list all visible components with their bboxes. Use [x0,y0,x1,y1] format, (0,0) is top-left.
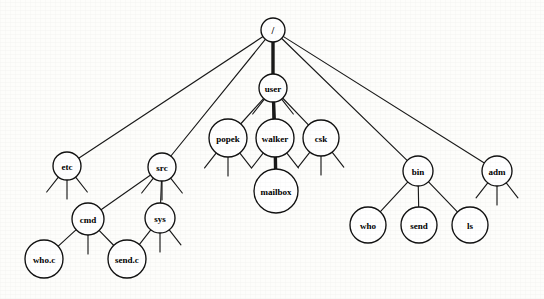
node-label-popek: popek [216,134,240,144]
node-label-sendc: send.c [115,255,139,265]
tree-node-bin[interactable]: bin [403,156,433,186]
stub-adm-left [476,183,488,198]
tree-node-root[interactable]: / [261,18,285,42]
node-label-walker: walker [262,134,289,144]
stub-csk-right [332,152,344,167]
node-label-cmd: cmd [80,215,97,225]
stub-adm-right [506,183,518,198]
edge-bin-to-who [380,182,408,213]
node-label-src: src [156,163,167,173]
node-label-adm: adm [488,167,506,177]
stub-popek-left [205,153,217,168]
nodes-layer: /userpopekwalkercskmailboxetcsrccmdsyswh… [25,18,512,278]
tree-svg-canvas: /userpopekwalkercskmailboxetcsrccmdsyswh… [0,0,544,299]
tree-node-walker[interactable]: walker [256,119,294,157]
tree-node-mailbox[interactable]: mailbox [254,169,298,213]
node-label-root: / [271,25,275,36]
tree-node-csk[interactable]: csk [303,120,339,156]
tree-node-etc[interactable]: etc [53,152,81,180]
stub-sys-left [139,230,151,245]
tree-node-ls[interactable]: ls [452,207,488,243]
edge-src-to-sys [161,180,162,203]
node-label-whoc: who.c [33,255,55,265]
edge-user-to-popek [240,98,264,124]
edge-root-to-bin [281,38,407,161]
stub-src-right [171,178,183,193]
tree-node-cmd[interactable]: cmd [72,203,104,235]
tree-node-src[interactable]: src [148,153,176,181]
node-label-user: user [265,84,282,94]
stub-popek-right [240,153,252,168]
stub-user-left [253,99,265,114]
tree-node-send[interactable]: send [401,207,437,243]
edge-user-to-csk [282,98,309,126]
edge-cmd-to-sendc [99,230,114,246]
node-label-ls: ls [467,221,474,231]
tree-node-sys[interactable]: sys [145,203,175,233]
tree-node-sendc[interactable]: send.c [108,240,146,278]
node-label-sys: sys [154,214,166,224]
filesystem-tree-diagram: /userpopekwalkercskmailboxetcsrccmdsyswh… [0,0,544,299]
stub-sys-right [169,230,181,245]
node-label-who: who [360,221,377,231]
edge-bin-to-ls [428,181,458,212]
tree-node-adm[interactable]: adm [482,156,512,186]
node-label-etc: etc [62,162,73,172]
stub-csk-left [298,152,310,167]
tree-node-popek[interactable]: popek [209,119,247,157]
node-label-mailbox: mailbox [260,187,292,197]
stub-walker-right [287,153,299,168]
node-label-send: send [410,221,428,231]
tree-node-user[interactable]: user [259,74,287,102]
tree-node-whoc[interactable]: who.c [25,240,63,278]
stub-walker-left [252,153,264,168]
node-label-bin: bin [412,167,425,177]
tree-node-who[interactable]: who [350,207,386,243]
stub-etc-left [47,177,59,192]
edge-cmd-to-whoc [58,229,77,246]
edge-src-to-cmd [101,175,151,210]
stub-etc-right [76,177,88,192]
node-label-csk: csk [315,134,328,144]
edge-user-to-walker [274,101,275,119]
